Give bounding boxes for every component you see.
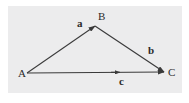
vector-a-line [27, 26, 95, 73]
vector-triangle-svg [0, 0, 189, 103]
diagram-canvas: A B C a b c [0, 0, 189, 103]
vector-label-b: b [148, 45, 154, 56]
vertex-label-a: A [18, 68, 26, 79]
vector-c-line [27, 72, 164, 73]
vector-label-c: c [119, 76, 124, 87]
vertex-label-c: C [168, 67, 175, 78]
vertex-label-b: B [98, 11, 105, 22]
vector-label-a: a [77, 18, 83, 29]
